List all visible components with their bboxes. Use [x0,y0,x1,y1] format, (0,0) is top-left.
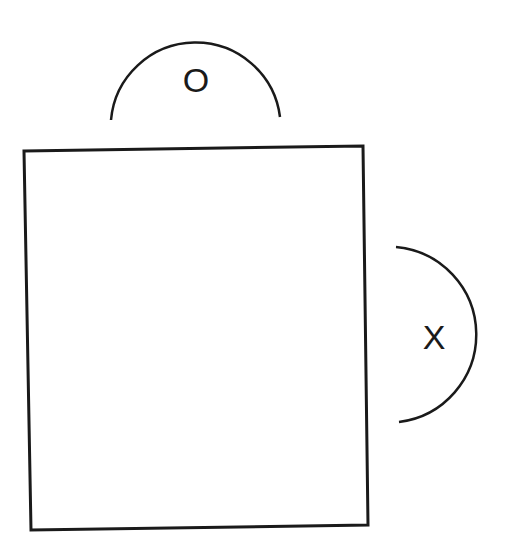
top-arc-label: O [183,61,209,99]
right-arc-label: X [423,318,446,356]
diagram-canvas: O X [0,0,512,555]
square-box [24,146,368,530]
